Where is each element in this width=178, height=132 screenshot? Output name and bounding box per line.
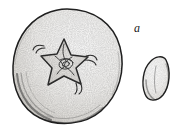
figure-artwork [0, 0, 178, 132]
botanical-figure: a [0, 0, 178, 132]
seed [140, 54, 174, 104]
figure-label-a: a [134, 22, 140, 34]
